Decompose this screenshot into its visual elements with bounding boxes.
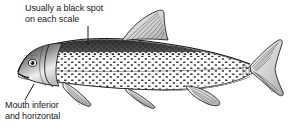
annotation-mouth-line1: Mouth inferior — [5, 100, 60, 111]
caudal-fin — [243, 40, 283, 96]
annotation-black-spot-line2: on each scale — [25, 14, 103, 25]
anal-fin — [186, 86, 220, 106]
leader-line-mouth — [25, 84, 34, 100]
dorsal-fin — [122, 10, 168, 41]
annotation-black-spot-line1: Usually a black spot — [25, 3, 103, 14]
pelvic-fin — [126, 88, 155, 108]
fish-diagram: Usually a black spot on each scale Mouth… — [0, 0, 293, 126]
fish-head — [18, 43, 63, 87]
annotation-black-spot: Usually a black spot on each scale — [25, 3, 103, 24]
annotation-mouth: Mouth inferior and horizontal — [5, 100, 60, 121]
annotation-mouth-line2: and horizontal — [5, 111, 60, 122]
fish-eye — [28, 60, 36, 67]
